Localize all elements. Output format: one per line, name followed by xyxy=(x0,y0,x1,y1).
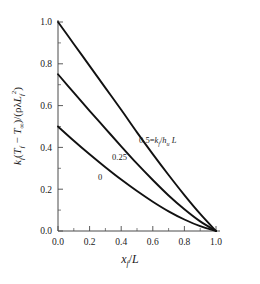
figure-container: 0.00.20.40.60.81.00.00.20.40.60.81.0 0.5… xyxy=(0,0,260,284)
x-axis-label: xf/L xyxy=(0,252,260,268)
y-axis-label: kf(Tf − T∞)/(ρλLf2) xyxy=(10,26,26,226)
x-tick-label: 0.4 xyxy=(115,237,127,247)
x-tick-label: 0.8 xyxy=(178,237,190,247)
y-axis-k-sub: f xyxy=(18,158,26,160)
curve-label-0: 0 xyxy=(98,172,102,182)
y-tick-label: 0.2 xyxy=(40,185,52,195)
data-curve-0-5 xyxy=(58,22,216,231)
y-axis-L-sub: f xyxy=(18,94,26,96)
x-tick-label: 1.0 xyxy=(210,237,222,247)
y-axis-open: ( xyxy=(11,154,23,158)
x-tick-label: 0.6 xyxy=(147,237,159,247)
y-tick-label: 0.8 xyxy=(40,59,52,69)
y-tick-label: 0.4 xyxy=(40,143,52,153)
y-axis-end: ) xyxy=(11,87,23,91)
tick-labels-group: 0.00.20.40.60.81.00.00.20.40.60.81.0 xyxy=(40,17,222,247)
curve-label-0-25-text: 0.25 xyxy=(112,152,127,162)
data-curve-0-25 xyxy=(58,74,216,231)
y-axis-L-sup: 2 xyxy=(10,91,18,95)
y-axis-T1-sub: f xyxy=(18,146,26,148)
y-axis-close: )/( xyxy=(11,113,23,123)
axes-group xyxy=(58,20,220,231)
curve-label-0-5-L: L xyxy=(172,135,177,145)
chart-canvas: 0.00.20.40.60.81.00.00.20.40.60.81.0 xyxy=(0,0,260,284)
y-axis-k: k xyxy=(11,160,23,165)
y-tick-label: 0.6 xyxy=(40,101,52,111)
curve-label-0-5-h-sub: u xyxy=(167,141,170,147)
y-axis-T1: T xyxy=(11,148,23,154)
data-curves-group xyxy=(58,22,216,231)
curve-label-0-text: 0 xyxy=(98,172,102,182)
y-axis-lambda: λ xyxy=(11,102,23,107)
x-tick-label: 0.0 xyxy=(52,237,64,247)
y-tick-label: 0.0 xyxy=(40,226,52,236)
y-tick-label: 1.0 xyxy=(40,17,52,27)
y-axis-T2-sub: ∞ xyxy=(18,123,26,128)
curve-label-0-5: 0.5=kf/hu L xyxy=(139,135,176,147)
curve-label-0-5-value: 0.5 xyxy=(139,135,150,145)
y-axis-minus: − xyxy=(11,135,23,147)
y-axis-T2: T xyxy=(11,128,23,134)
x-axis-L: L xyxy=(132,252,139,266)
curve-label-0-25: 0.25 xyxy=(112,152,127,162)
y-axis-L: L xyxy=(11,96,23,102)
y-axis-rho: ρ xyxy=(11,108,23,114)
x-tick-label: 0.2 xyxy=(84,237,96,247)
